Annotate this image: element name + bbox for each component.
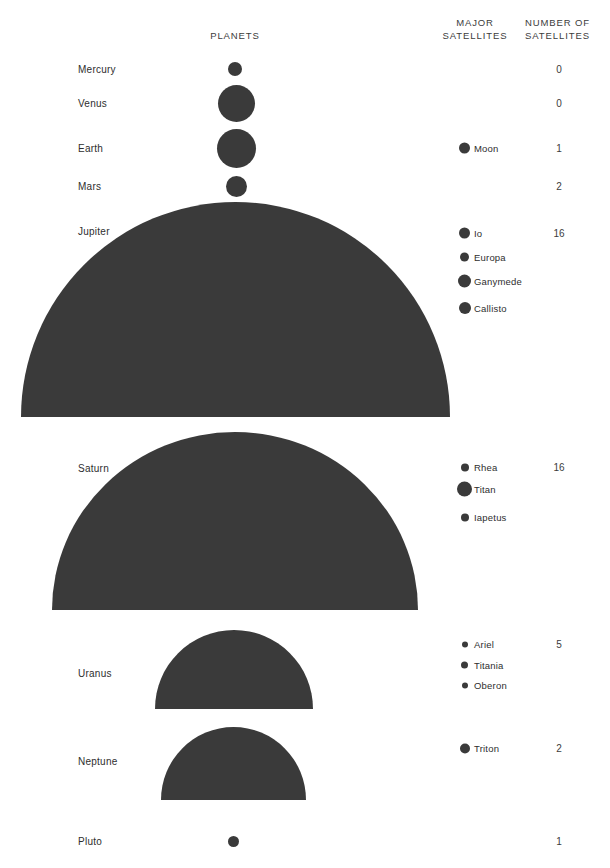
satellite-label: Moon bbox=[474, 143, 499, 154]
satellite-dot-wrapper bbox=[455, 275, 474, 288]
satellite-label: Triton bbox=[474, 743, 499, 754]
satellite-dot-icon bbox=[459, 228, 470, 239]
planet-label-jupiter: Jupiter bbox=[78, 226, 110, 237]
satellite-dot-icon bbox=[462, 641, 468, 647]
column-header-number-of-satellites: NUMBER OF SATELLITES bbox=[505, 16, 610, 42]
satellite-dot-icon bbox=[457, 482, 472, 497]
satellite-dot-wrapper bbox=[455, 463, 474, 471]
satellite-dot-icon bbox=[460, 253, 469, 262]
planet-body-saturn bbox=[52, 432, 418, 610]
satellite-label: Ariel bbox=[474, 639, 494, 650]
satellite-row: Europa bbox=[455, 252, 506, 263]
planet-label-pluto: Pluto bbox=[78, 836, 102, 847]
satellite-label: Callisto bbox=[474, 303, 507, 314]
planet-label-saturn: Saturn bbox=[78, 463, 109, 474]
satellite-label: Titan bbox=[474, 484, 496, 495]
planet-body-earth bbox=[217, 129, 256, 168]
satellite-dot-icon bbox=[459, 302, 471, 314]
satellite-row: Titania bbox=[455, 660, 504, 671]
satellite-dot-icon bbox=[459, 143, 470, 154]
satellite-dot-wrapper bbox=[455, 513, 474, 521]
satellite-row: Callisto bbox=[455, 302, 507, 314]
planet-body-venus bbox=[218, 85, 255, 122]
planet-body-mars bbox=[226, 176, 247, 197]
satellite-count-uranus: 5 bbox=[532, 639, 586, 650]
satellite-count-mercury: 0 bbox=[532, 64, 586, 75]
satellite-dot-wrapper bbox=[455, 482, 474, 497]
planet-label-mars: Mars bbox=[78, 181, 101, 192]
satellite-dot-wrapper bbox=[455, 743, 474, 753]
planet-body-uranus bbox=[155, 630, 313, 709]
satellite-dot-wrapper bbox=[455, 302, 474, 314]
satellite-label: Europa bbox=[474, 252, 506, 263]
planet-label-earth: Earth bbox=[78, 143, 103, 154]
satellite-dot-wrapper bbox=[455, 253, 474, 262]
satellite-dot-wrapper bbox=[455, 641, 474, 647]
satellite-label: Oberon bbox=[474, 680, 507, 691]
satellite-dot-icon bbox=[461, 463, 469, 471]
satellite-count-venus: 0 bbox=[532, 98, 586, 109]
satellite-count-neptune: 2 bbox=[532, 743, 586, 754]
satellite-dot-icon bbox=[462, 682, 468, 688]
satellite-row: Titan bbox=[455, 482, 496, 497]
satellite-count-pluto: 1 bbox=[532, 836, 586, 847]
satellite-count-mars: 2 bbox=[532, 181, 586, 192]
satellite-row: Moon bbox=[455, 143, 499, 154]
planet-label-uranus: Uranus bbox=[78, 668, 112, 679]
satellite-count-saturn: 16 bbox=[532, 462, 586, 473]
satellite-dot-icon bbox=[461, 662, 468, 669]
satellite-dot-icon bbox=[458, 275, 471, 288]
satellite-dot-icon bbox=[461, 513, 469, 521]
satellite-row: Ariel bbox=[455, 639, 494, 650]
satellite-count-earth: 1 bbox=[532, 143, 586, 154]
planet-body-neptune bbox=[161, 727, 306, 800]
satellite-count-jupiter: 16 bbox=[532, 228, 586, 239]
satellite-row: Io bbox=[455, 228, 482, 239]
solar-system-diagram: PLANETS MAJOR SATELLITES NUMBER OF SATEL… bbox=[0, 0, 610, 868]
planet-body-pluto bbox=[228, 836, 239, 847]
satellite-label: Titania bbox=[474, 660, 504, 671]
satellite-dot-wrapper bbox=[455, 662, 474, 669]
satellite-label: Iapetus bbox=[474, 512, 507, 523]
planet-body-mercury bbox=[228, 62, 242, 76]
satellite-dot-wrapper bbox=[455, 143, 474, 154]
satellite-row: Rhea bbox=[455, 462, 498, 473]
planet-label-mercury: Mercury bbox=[78, 64, 116, 75]
satellite-label: Ganymede bbox=[474, 276, 522, 287]
column-header-planets: PLANETS bbox=[160, 29, 310, 42]
satellite-dot-wrapper bbox=[455, 682, 474, 688]
satellite-row: Oberon bbox=[455, 680, 507, 691]
planet-label-neptune: Neptune bbox=[78, 756, 118, 767]
satellite-dot-icon bbox=[460, 743, 470, 753]
satellite-dot-wrapper bbox=[455, 228, 474, 239]
satellite-row: Ganymede bbox=[455, 275, 522, 288]
satellite-row: Iapetus bbox=[455, 512, 507, 523]
satellite-row: Triton bbox=[455, 743, 499, 754]
planet-label-venus: Venus bbox=[78, 98, 107, 109]
satellite-label: Rhea bbox=[474, 462, 498, 473]
satellite-label: Io bbox=[474, 228, 482, 239]
